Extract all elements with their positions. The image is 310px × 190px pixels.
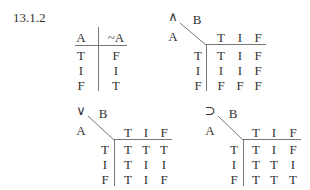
row-header: I: [232, 158, 236, 171]
cell: T: [270, 158, 278, 171]
cell: T: [252, 158, 260, 171]
cell: I: [291, 158, 295, 171]
cell: T: [270, 173, 278, 186]
col-header: F: [289, 126, 296, 139]
col-header: T: [252, 126, 260, 139]
cell: T: [289, 173, 297, 186]
row-header: T: [230, 143, 238, 156]
row-header: F: [230, 173, 237, 186]
cell: F: [289, 143, 296, 156]
column-divider: [243, 139, 244, 186]
diagonal-divider: [0, 0, 310, 190]
cell: T: [252, 143, 260, 156]
cell: I: [272, 143, 276, 156]
cell: T: [252, 173, 260, 186]
col-header: I: [272, 126, 276, 139]
